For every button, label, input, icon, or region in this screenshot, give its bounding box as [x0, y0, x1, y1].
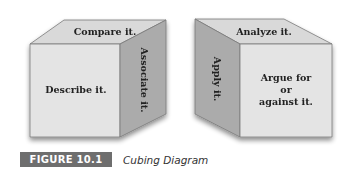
left-cube-top-label: Compare it.: [74, 26, 136, 37]
left-cube: Compare it. Describe it. Associate it.: [30, 20, 166, 137]
right-cube: Analyze it. Argue for or against it. App…: [195, 19, 332, 137]
left-cube-front-label: Describe it.: [45, 84, 106, 95]
figure-caption: FIGURE 10.1 Cubing Diagram: [20, 152, 208, 167]
right-cube-front-label-line1: Argue for: [260, 72, 313, 83]
right-cube-front-label-line3: against it.: [259, 96, 313, 107]
figure-number-label: FIGURE 10.1: [20, 152, 112, 167]
cubing-diagram: Compare it. Describe it. Associate it. A…: [0, 0, 352, 150]
right-cube-side-label: Apply it.: [212, 56, 223, 101]
left-cube-side-label: Associate it.: [139, 47, 150, 113]
right-cube-front-label-line2: or: [280, 84, 292, 95]
right-cube-top-label: Analyze it.: [235, 26, 292, 37]
figure-title: Cubing Diagram: [123, 154, 208, 166]
